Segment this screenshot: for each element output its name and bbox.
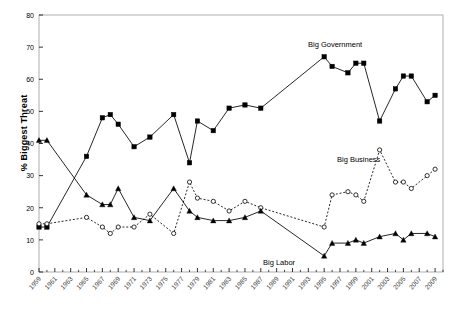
y-tick-label: 70 xyxy=(26,44,34,51)
series-label-big-government: Big Government xyxy=(308,40,362,49)
data-point xyxy=(361,240,366,245)
x-tick-label: 1999 xyxy=(344,275,359,291)
y-tick-label: 10 xyxy=(26,237,34,244)
data-point xyxy=(242,215,247,220)
data-point xyxy=(211,199,215,203)
data-point xyxy=(346,190,350,194)
data-point xyxy=(409,186,413,190)
data-point xyxy=(362,199,366,203)
x-tick-label: 1971 xyxy=(122,275,137,291)
x-tick-label: 1969 xyxy=(106,275,121,291)
x-tick-label: 1985 xyxy=(233,275,248,291)
data-point xyxy=(353,237,358,242)
x-tick-label: 1963 xyxy=(59,275,74,291)
data-point xyxy=(195,196,199,200)
data-point xyxy=(259,106,263,110)
data-point xyxy=(84,154,88,158)
data-point xyxy=(45,222,49,226)
x-tick-label: 1977 xyxy=(170,275,185,291)
data-point xyxy=(401,74,405,78)
y-tick-label: 0 xyxy=(30,269,34,276)
data-point xyxy=(116,122,120,126)
series-label-big-business: Big Business xyxy=(337,155,380,164)
x-tick-label: 1993 xyxy=(297,275,312,291)
x-tick-label: 2003 xyxy=(376,275,391,291)
data-point xyxy=(432,234,437,239)
x-tick-label: 1967 xyxy=(91,275,106,291)
data-point xyxy=(131,215,136,220)
x-tick-label: 1995 xyxy=(312,275,327,291)
x-tick-label: 2009 xyxy=(423,275,438,291)
data-point xyxy=(108,231,112,235)
y-tick-label: 80 xyxy=(26,12,34,19)
x-tick-label: 1989 xyxy=(265,275,280,291)
data-point xyxy=(322,55,326,59)
data-point xyxy=(148,212,152,216)
line-chart: 01020304050607080 1959196119631965196719… xyxy=(0,0,457,319)
x-tick-label: 1959 xyxy=(27,275,42,291)
x-tick-label: 2005 xyxy=(392,275,407,291)
x-tick-label: 1979 xyxy=(186,275,201,291)
x-tick-label-layer: 1959196119631965196719691971197319751977… xyxy=(27,275,438,291)
x-tick-label: 1965 xyxy=(75,275,90,291)
x-tick-label: 1981 xyxy=(201,275,216,291)
data-point xyxy=(243,103,247,107)
data-point xyxy=(227,106,231,110)
data-point xyxy=(227,209,231,213)
data-point xyxy=(116,186,121,191)
data-point xyxy=(330,64,334,68)
data-point xyxy=(108,112,112,116)
data-point xyxy=(187,161,191,165)
chart-container: % Biggest Threat 01020304050607080 19591… xyxy=(0,0,457,319)
data-point xyxy=(378,148,382,152)
x-tick-label: 1961 xyxy=(43,275,58,291)
data-point xyxy=(100,225,104,229)
data-point xyxy=(433,167,437,171)
data-point xyxy=(84,215,88,219)
data-point xyxy=(171,186,176,191)
x-tick-label: 2007 xyxy=(407,275,422,291)
data-point xyxy=(401,180,405,184)
x-tick-label: 1983 xyxy=(217,275,232,291)
data-point xyxy=(393,180,397,184)
data-point xyxy=(116,225,120,229)
y-tick-label: 40 xyxy=(26,140,34,147)
data-point xyxy=(132,225,136,229)
x-tick-label: 2001 xyxy=(360,275,375,291)
x-tick-label: 1991 xyxy=(281,275,296,291)
data-point xyxy=(393,87,397,91)
data-point xyxy=(322,225,326,229)
x-tick-label: 1975 xyxy=(154,275,169,291)
data-point xyxy=(377,119,381,123)
data-point xyxy=(425,174,429,178)
data-point xyxy=(187,180,191,184)
y-tick-label: 50 xyxy=(26,108,34,115)
data-point xyxy=(321,253,326,258)
x-tick-label: 1997 xyxy=(328,275,343,291)
x-tick-label: 1973 xyxy=(138,275,153,291)
data-point xyxy=(330,193,334,197)
data-point xyxy=(346,71,350,75)
data-point xyxy=(409,74,413,78)
data-point xyxy=(132,145,136,149)
series-label-big-labor: Big Labor xyxy=(263,258,295,267)
y-tick-label: 30 xyxy=(26,172,34,179)
data-point xyxy=(172,231,176,235)
data-point xyxy=(100,116,104,120)
data-point xyxy=(425,100,429,104)
data-point xyxy=(195,119,199,123)
data-point xyxy=(354,61,358,65)
y-tick-label: 20 xyxy=(26,205,34,212)
data-point xyxy=(354,193,358,197)
data-point xyxy=(211,128,215,132)
data-point xyxy=(393,231,398,236)
series-line-big-government xyxy=(39,57,435,227)
data-point xyxy=(433,93,437,97)
y-tick-label: 60 xyxy=(26,76,34,83)
data-point xyxy=(362,61,366,65)
data-point xyxy=(37,222,41,226)
data-point xyxy=(243,199,247,203)
data-point xyxy=(148,135,152,139)
data-point xyxy=(171,112,175,116)
x-tick-label: 1987 xyxy=(249,275,264,291)
